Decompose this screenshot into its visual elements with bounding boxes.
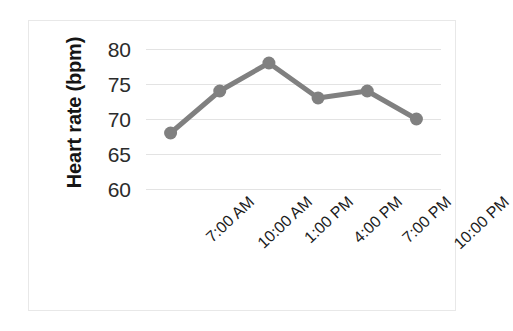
data-point-marker bbox=[361, 85, 374, 98]
y-tick-label: 60 bbox=[81, 179, 131, 200]
x-tick-label: 4:00 PM bbox=[350, 193, 406, 247]
y-tick-label: 80 bbox=[81, 39, 131, 60]
plot-area bbox=[146, 49, 441, 189]
x-axis-tick-labels: 7:00 AM10:00 AM1:00 PM4:00 PM7:00 PM10:0… bbox=[146, 193, 476, 303]
data-point-marker bbox=[312, 92, 325, 105]
series-line bbox=[171, 63, 417, 133]
line-series bbox=[134, 37, 453, 201]
data-point-marker bbox=[410, 113, 423, 126]
y-tick-label: 70 bbox=[81, 109, 131, 130]
y-tick-label: 65 bbox=[81, 144, 131, 165]
x-tick-label: 7:00 AM bbox=[202, 193, 257, 246]
chart-frame: Heart rate (bpm) 6065707580 7:00 AM10:00… bbox=[28, 20, 456, 311]
x-tick-label: 10:00 AM bbox=[254, 193, 316, 252]
data-point-marker bbox=[213, 85, 226, 98]
x-tick-label: 7:00 PM bbox=[399, 193, 455, 247]
data-point-marker bbox=[164, 127, 177, 140]
y-axis-tick-labels: 6065707580 bbox=[81, 29, 131, 209]
x-tick-label: 10:00 PM bbox=[451, 193, 513, 253]
y-tick-label: 75 bbox=[81, 74, 131, 95]
data-point-marker bbox=[262, 57, 275, 70]
